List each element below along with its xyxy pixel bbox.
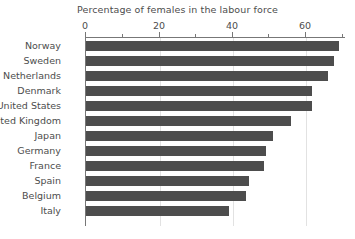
category-label-netherlands: Netherlands [3,71,61,81]
category-label-sweden: Sweden [23,56,61,66]
category-label-spain: Spain [34,176,61,186]
x-axis-label-40: 40 [226,20,238,31]
x-axis-label-20: 20 [153,20,165,31]
category-label-belgium: Belgium [22,191,61,201]
category-label-united-kingdom: United Kingdom [0,116,61,126]
category-label-united-states: United States [0,101,61,111]
x-axis-label-0: 0 [82,20,88,31]
chart-title: Percentage of females in the labour forc… [0,4,355,15]
category-label-germany: Germany [17,146,61,156]
category-axis: Norway Sweden Netherlands Denmark United… [0,38,355,226]
x-axis-label-60: 60 [299,20,311,31]
chart-container: Percentage of females in the labour forc… [0,0,355,239]
x-axis: 0 20 40 60 [85,20,345,38]
category-label-france: France [29,161,61,171]
category-label-japan: Japan [35,131,62,141]
category-label-denmark: Denmark [17,86,61,96]
category-label-italy: Italy [40,206,61,216]
category-label-norway: Norway [25,41,61,51]
